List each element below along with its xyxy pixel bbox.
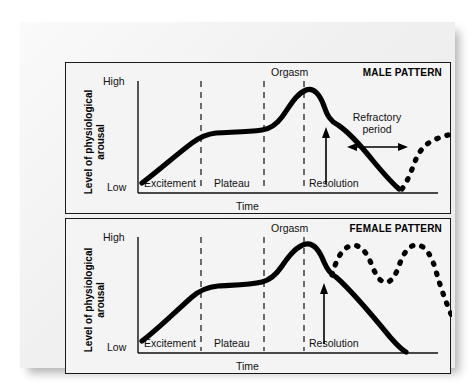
figure-card: MALE PATTERN Level of physiological arou… (20, 22, 455, 368)
curve-refractory-recovery-male (402, 132, 452, 189)
curve-arousal-female (142, 244, 406, 352)
resolution-arrow-head-female (320, 283, 328, 294)
curve-arousal-male (142, 89, 399, 189)
resolution-arrow-head-male (322, 127, 330, 138)
plot-area-male (66, 63, 450, 213)
chart-panel-female: FEMALE PATTERN Level of physiological ar… (65, 218, 451, 374)
refractory-span-head-left-male (347, 143, 357, 151)
figure-root: MALE PATTERN Level of physiological arou… (0, 0, 473, 387)
chart-panel-male: MALE PATTERN Level of physiological arou… (65, 62, 451, 214)
plot-area-female (66, 219, 450, 373)
refractory-span-head-right-male (398, 143, 408, 151)
